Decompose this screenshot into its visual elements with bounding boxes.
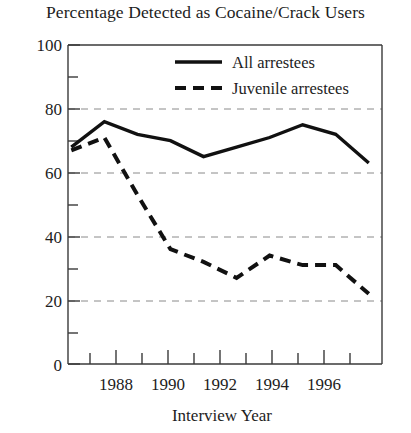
y-axis-label-40: 40 xyxy=(45,228,62,247)
y-axis-label-20: 20 xyxy=(45,292,62,311)
y-axis-label-100: 100 xyxy=(37,36,63,55)
x-axis-label-1992: 1992 xyxy=(203,375,237,394)
y-axis-label-0: 0 xyxy=(54,356,63,375)
legend-label-all-arrestees: All arrestees xyxy=(232,53,315,72)
line-chart-plot: 100 80 60 40 20 0 1988 1990 1992 1994 xyxy=(0,0,411,433)
x-axis-label-1990: 1990 xyxy=(151,375,185,394)
y-axis-labels: 100 80 60 40 20 0 xyxy=(37,36,63,375)
y-axis-label-60: 60 xyxy=(45,164,62,183)
y-axis-label-80: 80 xyxy=(45,100,62,119)
chart-figure: Percentage Detected as Cocaine/Crack Use… xyxy=(0,0,411,433)
x-axis-labels: 1988 1990 1992 1994 1996 xyxy=(99,375,341,394)
x-axis-label-1988: 1988 xyxy=(99,375,133,394)
legend-label-juvenile-arrestees: Juvenile arrestees xyxy=(232,79,349,98)
x-axis-title: Interview Year xyxy=(172,406,272,425)
x-axis-label-1994: 1994 xyxy=(255,375,290,394)
x-axis-label-1996: 1996 xyxy=(307,375,341,394)
